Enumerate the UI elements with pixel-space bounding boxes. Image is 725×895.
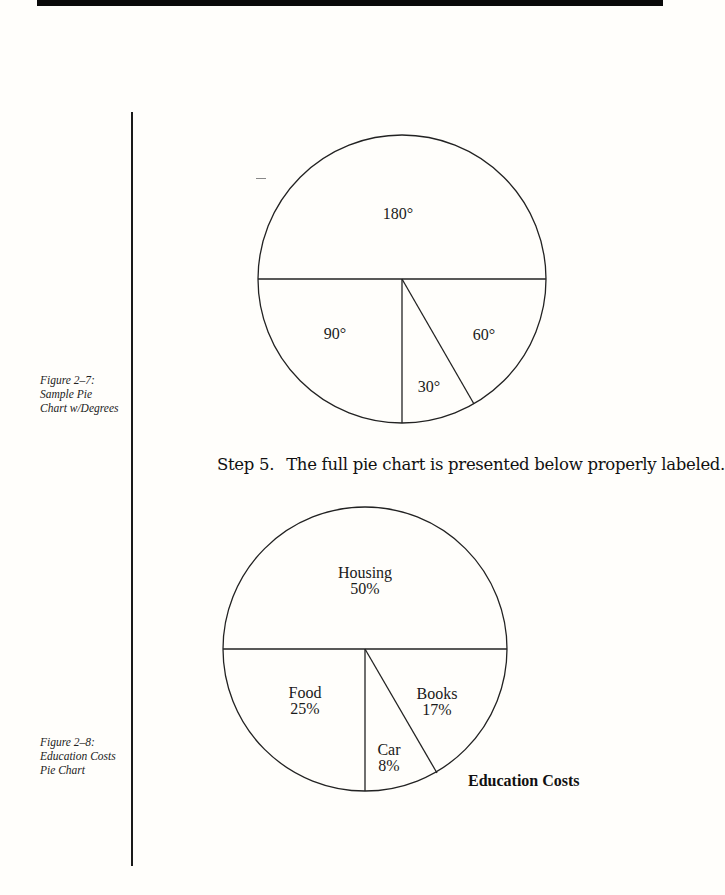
step-number: Step 5.	[217, 455, 274, 474]
pie1-label-60: 60°	[473, 326, 495, 343]
pie-chart-education	[223, 507, 507, 791]
pie2-label-car: Car	[377, 741, 401, 758]
step-5-text: Step 5.The full pie chart is presented b…	[217, 455, 725, 474]
pie1-label-30: 30°	[418, 378, 440, 395]
pie2-label-food-pct: 25%	[290, 700, 319, 717]
pie1-label-180: 180°	[383, 205, 413, 222]
pie-chart-degrees	[258, 135, 546, 423]
pie1-label-90: 90°	[324, 325, 346, 342]
pie2-label-books: Books	[417, 685, 458, 702]
education-costs-chart-title: Education Costs	[468, 772, 580, 790]
pie2-label-food: Food	[289, 684, 322, 701]
step-description: The full pie chart is presented below pr…	[286, 455, 725, 474]
pie2-label-housing-pct: 50%	[350, 580, 379, 597]
pie2-label-books-pct: 17%	[422, 701, 451, 718]
pie2-label-car-pct: 8%	[378, 757, 399, 774]
